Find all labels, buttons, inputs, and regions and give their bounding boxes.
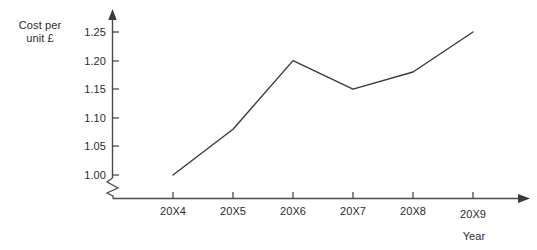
y-axis-group [107, 9, 118, 198]
y-axis-ticks [113, 32, 120, 175]
data-series-line [173, 32, 473, 175]
chart-plot-area [0, 0, 537, 250]
chart-screenshot: Cost per unit £ 1.25 1.20 1.15 1.10 1.05… [0, 0, 537, 250]
x-axis-arrow-icon [518, 194, 530, 203]
y-axis-break-icon [107, 178, 118, 198]
x-axis-group [113, 194, 531, 203]
x-axis-ticks [173, 192, 473, 199]
y-axis-arrow-icon [108, 9, 116, 20]
